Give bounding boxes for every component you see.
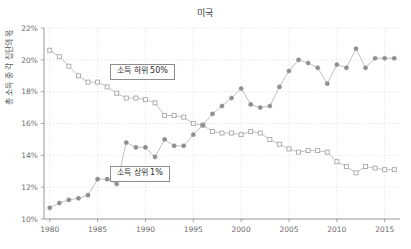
svg-text:20%: 20% bbox=[21, 56, 38, 65]
annotation-top-1: 소득 상위 1% bbox=[110, 166, 170, 182]
svg-text:16%: 16% bbox=[21, 119, 38, 128]
svg-text:2010: 2010 bbox=[327, 225, 346, 234]
y-axis-ticks: 10%12%14%16%18%20%22% bbox=[21, 24, 44, 224]
chart-container: 미국 총 소득 중 각 집단의 몫 10%12%14%16%18%20%22% … bbox=[0, 0, 411, 249]
svg-text:2000: 2000 bbox=[232, 225, 251, 234]
svg-text:1990: 1990 bbox=[136, 225, 155, 234]
svg-text:14%: 14% bbox=[21, 151, 38, 160]
svg-text:1980: 1980 bbox=[40, 225, 59, 234]
svg-text:2015: 2015 bbox=[375, 225, 394, 234]
grid-lines bbox=[44, 28, 400, 219]
plot-area: 10%12%14%16%18%20%22% 198019851990199520… bbox=[0, 0, 411, 249]
svg-text:12%: 12% bbox=[21, 183, 38, 192]
svg-text:2005: 2005 bbox=[279, 225, 298, 234]
svg-text:10%: 10% bbox=[21, 215, 38, 224]
data-series bbox=[48, 47, 397, 210]
svg-text:22%: 22% bbox=[21, 24, 38, 33]
svg-text:1985: 1985 bbox=[88, 225, 107, 234]
svg-text:18%: 18% bbox=[21, 87, 38, 96]
x-axis-ticks: 19801985199019952000200520102015 bbox=[40, 219, 394, 234]
svg-text:1995: 1995 bbox=[184, 225, 203, 234]
annotation-bottom-50: 소득 하위 50% bbox=[110, 64, 175, 80]
